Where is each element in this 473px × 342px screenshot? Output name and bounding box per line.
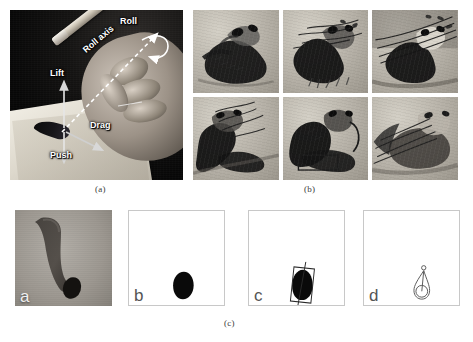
subpanel-label-d: d (369, 287, 378, 304)
subpanel-b-footprint: b (128, 210, 225, 306)
footprint-with-axis (249, 211, 344, 305)
subpanel-a-brush-photo: a (15, 210, 112, 306)
panel-c-subpanel-row: a b c (15, 210, 460, 306)
label-push: Push (50, 150, 72, 160)
ink-painting-2 (283, 10, 369, 93)
ink-noise-6 (372, 97, 458, 180)
ink-noise-2 (283, 10, 369, 93)
panel-a-photograph: Roll Roll axis Lift Drag Push (10, 10, 183, 180)
ink-noise-3 (372, 10, 458, 93)
label-roll: Roll (120, 16, 137, 26)
ink-painting-6 (372, 97, 458, 180)
subpanel-d-teardrop-model: d (363, 210, 460, 306)
ink-painting-4 (193, 97, 279, 180)
ink-painting-5 (283, 97, 369, 180)
ink-painting-1 (193, 10, 279, 93)
subpanel-label-a: a (20, 288, 29, 305)
label-drag: Drag (90, 120, 111, 130)
caption-panel-b: (b) (304, 184, 315, 194)
label-lift: Lift (50, 68, 64, 78)
figure-container: Roll Roll axis Lift Drag Push (0, 0, 473, 342)
ink-noise-5 (283, 97, 369, 180)
subpanel-c-footprint-axis: c (248, 210, 345, 306)
ink-painting-3 (372, 10, 458, 93)
caption-panel-c: (c) (224, 318, 235, 328)
ink-noise-4 (193, 97, 279, 180)
subpanel-label-b: b (134, 287, 143, 304)
caption-panel-a: (a) (95, 184, 106, 194)
ink-noise-1 (193, 10, 279, 93)
panel-b-image-grid (193, 10, 458, 180)
brush-tip-photo-shape (15, 210, 112, 306)
subpanel-label-c: c (254, 287, 263, 304)
